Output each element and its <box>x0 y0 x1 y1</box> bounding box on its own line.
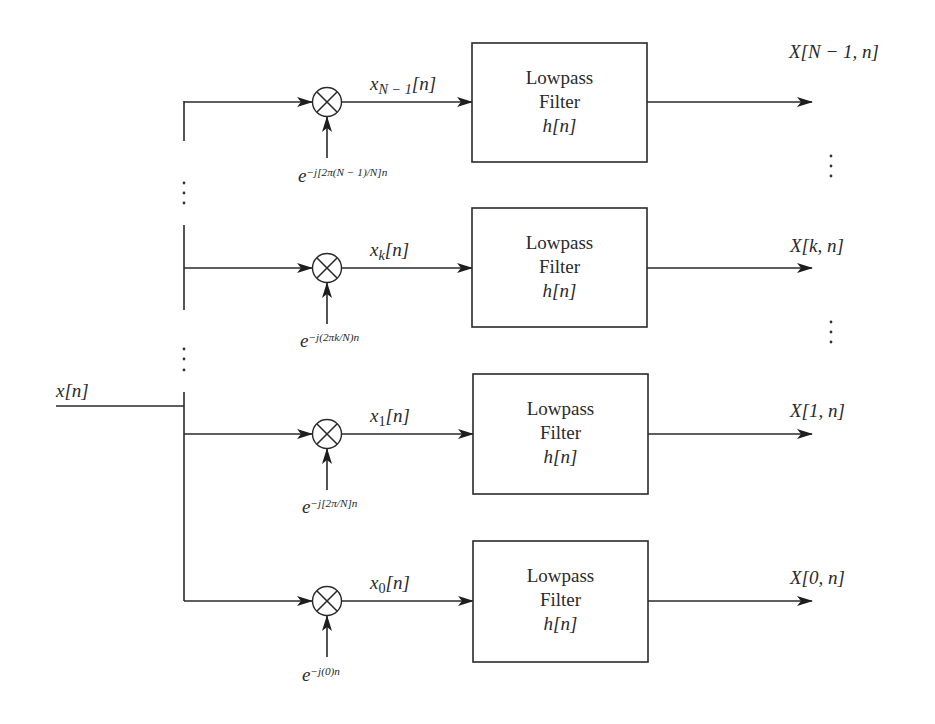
bus-ellipsis-lower <box>183 348 186 372</box>
oscillator-label-n-minus-1: e−j[2π(N − 1)/N]n <box>298 166 387 185</box>
oscillator-label-k: e−j(2πk/N)n <box>300 331 359 350</box>
filter-bank-diagram <box>0 0 935 724</box>
output-label-1: X[1, n] <box>790 401 845 420</box>
oscillator-label-1: e−j[2π/N]n <box>302 497 357 516</box>
output-label-k: X[k, n] <box>790 236 844 255</box>
signal-label-0: x0[n] <box>370 573 410 596</box>
bus-ellipsis-upper <box>183 182 186 205</box>
signal-label-k: xk[n] <box>370 240 409 263</box>
output-ellipsis-lower <box>830 321 833 344</box>
input-signal-label: x[n] <box>56 381 89 400</box>
filter-text-0: Lowpass Filter h[n] <box>473 564 648 636</box>
filter-text-1: Lowpass Filter h[n] <box>473 397 648 469</box>
output-label-0: X[0, n] <box>790 568 845 587</box>
oscillator-label-0: e−j(0)n <box>302 665 340 684</box>
signal-label-n-minus-1: xN − 1[n] <box>370 74 436 97</box>
signal-label-1: x1[n] <box>370 406 410 429</box>
output-ellipsis-upper <box>830 155 833 178</box>
output-label-n-minus-1: X[N − 1, n] <box>789 42 879 61</box>
filter-text-k: Lowpass Filter h[n] <box>472 231 647 303</box>
filter-text-n-minus-1: Lowpass Filter h[n] <box>472 66 647 138</box>
